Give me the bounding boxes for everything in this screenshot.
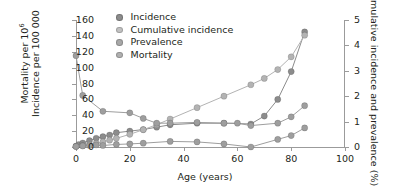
data-point-prevalence <box>127 141 133 147</box>
data-point-mortality <box>140 115 146 121</box>
x-axis-tick <box>184 147 185 151</box>
data-point-cumulative-incidence <box>248 82 254 88</box>
data-point-mortality <box>154 120 160 126</box>
x-axis-tick-label: 40 <box>169 154 199 164</box>
data-point-prevalence <box>167 138 173 144</box>
y-axis-right-title: Cumulative incidence and prevalence (%) <box>369 0 380 127</box>
x-axis-tick-label: 60 <box>222 154 252 164</box>
y-axis-left-tick-label: 60 <box>82 94 94 104</box>
y-axis-right-tick <box>345 96 349 97</box>
data-point-prevalence <box>302 125 308 131</box>
y-axis-right-tick-label: 4 <box>354 40 360 50</box>
data-point-mortality <box>248 122 254 128</box>
y-axis-left-tick-label: 0 <box>88 142 94 152</box>
x-axis-tick <box>345 147 346 151</box>
y-axis-left-tick-label: 160 <box>76 15 94 25</box>
data-point-prevalence <box>93 142 99 148</box>
data-point-mortality <box>100 108 106 114</box>
data-point-prevalence <box>140 140 146 146</box>
data-point-mortality <box>167 120 173 126</box>
y-axis-left-title-line2: Incidence per 100 000 <box>30 10 41 117</box>
x-axis-tick-label: 0 <box>61 154 91 164</box>
data-point-mortality <box>288 114 294 120</box>
y-axis-left-tick-label: 80 <box>82 79 94 89</box>
data-point-cumulative-incidence <box>288 54 294 60</box>
y-axis-right-tick <box>345 45 349 46</box>
data-point-mortality <box>194 119 200 125</box>
data-point-prevalence <box>194 139 200 145</box>
data-point-cumulative-incidence <box>221 93 227 99</box>
data-point-cumulative-incidence <box>302 32 308 38</box>
y-axis-right-tick <box>345 71 349 72</box>
data-point-incidence <box>113 130 119 136</box>
x-axis-title-text: Age (years) <box>178 171 233 182</box>
data-point-mortality <box>234 120 240 126</box>
data-point-prevalence <box>248 144 254 150</box>
x-axis-tick-label: 80 <box>276 154 306 164</box>
data-point-cumulative-incidence <box>275 66 281 72</box>
data-point-prevalence <box>100 142 106 148</box>
y-axis-left-title-superscript: 6 <box>18 23 26 27</box>
data-point-prevalence <box>73 143 79 149</box>
y-axis-left-tick-label: 100 <box>76 63 94 73</box>
data-point-cumulative-incidence <box>261 75 267 81</box>
y-axis-right-tick-label: 5 <box>354 15 360 25</box>
series-line-cumulative-incidence <box>76 35 305 146</box>
y-axis-left-title-line1: Mortality per 10 <box>19 28 30 104</box>
data-point-cumulative-incidence <box>107 137 113 143</box>
x-axis-tick <box>130 147 131 151</box>
data-point-incidence <box>261 113 267 119</box>
data-point-prevalence <box>288 132 294 138</box>
data-point-incidence <box>275 96 281 102</box>
plot-area <box>76 20 345 147</box>
y-axis-right-tick-label: 3 <box>354 66 360 76</box>
y-axis-left-tick-label: 40 <box>82 110 94 120</box>
y-axis-left-tick-label: 140 <box>76 31 94 41</box>
y-axis-left-title: Mortality per 106 Incidence per 100 000 <box>19 0 42 134</box>
data-point-mortality <box>302 103 308 109</box>
y-axis-right-title-text: Cumulative incidence and prevalence (%) <box>369 0 380 186</box>
data-point-mortality <box>275 120 281 126</box>
data-point-prevalence <box>80 143 86 149</box>
data-point-mortality <box>127 110 133 116</box>
x-axis-tick <box>291 147 292 151</box>
y-axis-right-tick <box>345 122 349 123</box>
series-plot <box>76 20 345 147</box>
x-axis-tick-label: 20 <box>115 154 145 164</box>
data-point-prevalence <box>221 141 227 147</box>
data-point-prevalence <box>113 141 119 147</box>
y-axis-left-tick-label: 20 <box>82 126 94 136</box>
x-axis-title: Age (years) <box>120 172 290 183</box>
series-line-incidence <box>76 32 305 146</box>
series-line-mortality <box>76 56 305 126</box>
y-axis-right-tick <box>345 20 349 21</box>
data-point-cumulative-incidence <box>113 135 119 141</box>
data-point-cumulative-incidence <box>127 131 133 137</box>
x-axis-tick-label: 100 <box>330 154 360 164</box>
y-axis-left-tick-label: 120 <box>76 47 94 57</box>
data-point-prevalence <box>275 136 281 142</box>
y-axis-right-tick-label: 0 <box>354 142 360 152</box>
y-axis-right-tick-label: 2 <box>354 91 360 101</box>
x-axis-tick <box>237 147 238 151</box>
y-axis-right-tick-label: 1 <box>354 117 360 127</box>
data-point-mortality <box>221 120 227 126</box>
data-point-incidence <box>288 68 294 74</box>
chart-figure: Incidence Cumulative incidence Prevalenc… <box>0 0 404 191</box>
data-point-cumulative-incidence <box>194 105 200 111</box>
data-point-cumulative-incidence <box>140 127 146 133</box>
